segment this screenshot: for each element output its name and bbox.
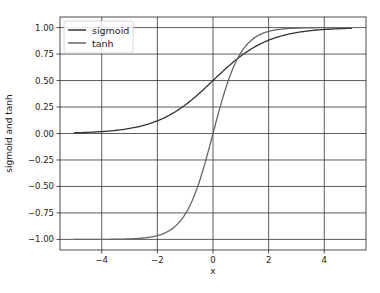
y-tick-label: −0.25 <box>28 155 54 165</box>
y-tick-label: 0.25 <box>35 102 54 112</box>
y-tick-label: −0.75 <box>28 208 54 218</box>
x-tick-label: −2 <box>151 255 164 265</box>
y-tick-label: 1.00 <box>35 23 54 33</box>
y-tick-label: 0.75 <box>35 49 54 59</box>
x-tick-label: 4 <box>322 255 327 265</box>
legend-label-tanh: tanh <box>92 38 114 49</box>
x-tick-label: 0 <box>210 255 215 265</box>
x-tick-label: −4 <box>95 255 108 265</box>
y-tick-label: −1.00 <box>28 234 54 244</box>
legend-label-sigmoid: sigmoid <box>92 25 129 36</box>
y-axis-ticks: 1.000.750.500.250.00−0.25−0.50−0.75−1.00 <box>28 23 60 245</box>
y-tick-label: 0.50 <box>35 76 54 86</box>
y-tick-label: 0.00 <box>35 129 54 139</box>
x-axis-label: x <box>210 266 216 276</box>
x-tick-label: 2 <box>266 255 271 265</box>
y-tick-label: −0.50 <box>28 181 54 191</box>
x-axis-ticks: −4−2024 <box>95 250 327 265</box>
legend: sigmoidtanh <box>64 21 133 53</box>
y-axis-label: sigmoid and tanh <box>4 94 14 173</box>
chart: −4−2024 1.000.750.500.250.00−0.25−0.50−0… <box>0 0 380 293</box>
